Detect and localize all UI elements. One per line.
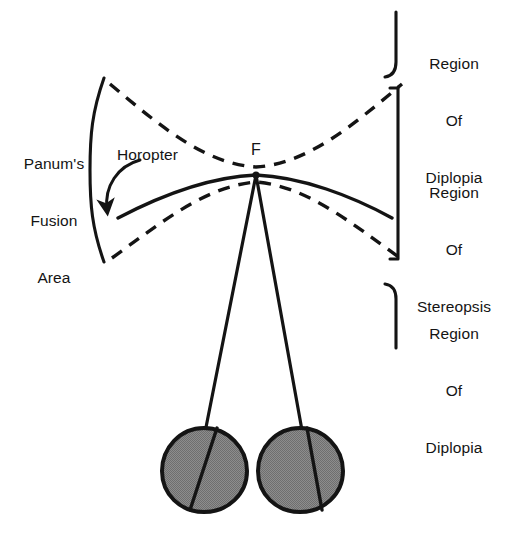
region-mid-line-1: Region: [406, 183, 502, 202]
region-of-diplopia-bottom-label: Region Of Diplopia: [406, 286, 502, 495]
panums-label-line-3: Area: [8, 268, 100, 287]
panums-label-line-2: Fusion: [8, 211, 100, 230]
fixation-point-label: F: [246, 140, 266, 159]
panums-label-line-1: Panum's: [8, 154, 100, 173]
right-hook-bracket-bottom: [385, 284, 396, 348]
region-top-line-1: Region: [406, 54, 502, 73]
region-bot-line-3: Diplopia: [406, 438, 502, 457]
right-square-bracket-middle: [390, 88, 398, 259]
right-hook-bracket-top: [385, 12, 396, 77]
region-mid-line-2: Of: [406, 240, 502, 259]
region-bot-line-1: Region: [406, 324, 502, 343]
diagram-canvas: Panum's Fusion Area Horopter F Region Of…: [0, 0, 510, 543]
horopter-label: Horopter: [117, 145, 178, 164]
horopter-pointer-arrow: [107, 160, 140, 210]
lower-dashed-boundary-curve: [112, 182, 400, 258]
region-top-line-2: Of: [406, 111, 502, 130]
region-bot-line-2: Of: [406, 381, 502, 400]
panums-fusion-area-label: Panum's Fusion Area: [8, 116, 100, 325]
eye-globe-right: [258, 428, 343, 512]
